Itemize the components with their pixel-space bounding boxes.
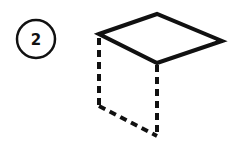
diagram-canvas: 2 xyxy=(0,0,240,149)
top-face xyxy=(99,14,222,63)
step-number-badge: 2 xyxy=(17,20,55,58)
box-figure xyxy=(99,14,222,136)
step-number: 2 xyxy=(31,31,41,49)
bottom-edge-dashed xyxy=(99,106,157,136)
